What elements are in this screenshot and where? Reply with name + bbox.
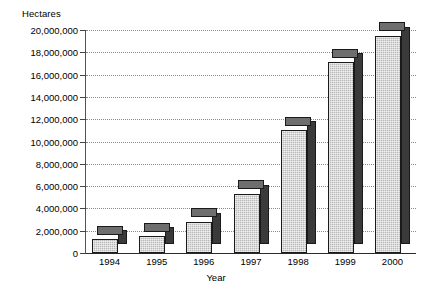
- bar-top-face: [191, 208, 217, 217]
- x-axis-tick-label: 1994: [99, 256, 120, 267]
- bar-front-face: [375, 36, 401, 253]
- bar-front-face: [92, 239, 118, 253]
- y-axis-tick: [80, 186, 86, 187]
- y-axis-tick-label: 6,000,000: [36, 181, 78, 192]
- x-axis-tick-label: 1999: [335, 256, 356, 267]
- bar-front-face: [281, 130, 307, 253]
- y-axis-tick-label: 16,000,000: [30, 69, 78, 80]
- x-axis-title: Year: [0, 272, 432, 283]
- x-axis-tick-label: 1996: [193, 256, 214, 267]
- y-axis-tick-label: 18,000,000: [30, 47, 78, 58]
- bar-top-face: [97, 226, 123, 235]
- y-axis-tick-labels: 02,000,0004,000,0006,000,0008,000,00010,…: [0, 0, 78, 294]
- y-axis-tick: [80, 75, 86, 76]
- bar-2000: [375, 27, 410, 253]
- bar-1999: [328, 53, 363, 253]
- bar-side-face: [212, 213, 221, 244]
- bar-1996: [186, 213, 221, 253]
- bar-side-face: [354, 53, 363, 244]
- gridline: [86, 52, 416, 53]
- x-axis-baseline: [86, 253, 416, 254]
- gridline: [86, 119, 416, 120]
- y-axis-tick: [80, 253, 86, 254]
- x-axis-tick-label: 1995: [146, 256, 167, 267]
- bar-side-face: [307, 121, 316, 244]
- bar-top-face: [285, 117, 311, 126]
- y-axis-tick: [80, 231, 86, 232]
- x-axis-tick-labels: 1994199519961997199819992000: [86, 256, 416, 270]
- gridline: [86, 30, 416, 31]
- x-axis-tick-label: 2000: [382, 256, 403, 267]
- y-axis-tick: [80, 164, 86, 165]
- y-axis-tick-label: 2,000,000: [36, 225, 78, 236]
- x-axis-tick-label: 1998: [288, 256, 309, 267]
- bar-chart: Hectares 02,000,0004,000,0006,000,0008,0…: [0, 0, 432, 294]
- bar-front-face: [234, 194, 260, 253]
- bar-1997: [234, 185, 269, 253]
- bar-side-face: [401, 27, 410, 244]
- bar-top-face: [238, 180, 264, 189]
- bar-1994: [92, 230, 127, 253]
- bar-top-face: [332, 49, 358, 58]
- bar-front-face: [139, 236, 165, 253]
- gridline: [86, 75, 416, 76]
- y-axis-tick-label: 4,000,000: [36, 203, 78, 214]
- y-axis-tick-label: 10,000,000: [30, 136, 78, 147]
- bar-1998: [281, 121, 316, 253]
- bar-front-face: [328, 62, 354, 253]
- x-axis-tick-label: 1997: [240, 256, 261, 267]
- y-axis-tick: [80, 142, 86, 143]
- gridline: [86, 142, 416, 143]
- bar-front-face: [186, 222, 212, 253]
- y-axis-tick: [80, 119, 86, 120]
- y-axis-tick-label: 14,000,000: [30, 91, 78, 102]
- y-axis-tick: [80, 97, 86, 98]
- y-axis-tick-label: 12,000,000: [30, 114, 78, 125]
- y-axis-tick: [80, 30, 86, 31]
- y-axis-tick-label: 8,000,000: [36, 158, 78, 169]
- gridline: [86, 97, 416, 98]
- gridline: [86, 164, 416, 165]
- bar-top-face: [379, 22, 405, 31]
- bar-side-face: [260, 185, 269, 244]
- y-axis-tick-label: 0: [73, 248, 78, 259]
- y-axis-tick: [80, 52, 86, 53]
- y-axis-tick-label: 20,000,000: [30, 25, 78, 36]
- plot-area: [86, 30, 416, 253]
- bar-1995: [139, 227, 174, 253]
- y-axis-tick: [80, 208, 86, 209]
- bar-top-face: [144, 223, 170, 232]
